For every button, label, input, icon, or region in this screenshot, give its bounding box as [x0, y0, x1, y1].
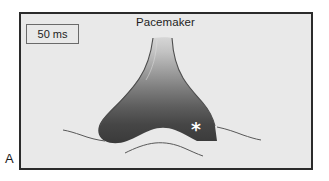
pacemaker-annotation-label: Pacemaker [136, 16, 195, 28]
asterisk-marker: * [191, 120, 201, 139]
figure-panel: A [0, 0, 329, 181]
panel-letter: A [5, 152, 14, 165]
image-frame: 50 ms Pacemaker * [19, 12, 313, 170]
scale-bar-label: 50 ms [38, 29, 68, 40]
pacemaker-annotation: Pacemaker [21, 17, 311, 29]
